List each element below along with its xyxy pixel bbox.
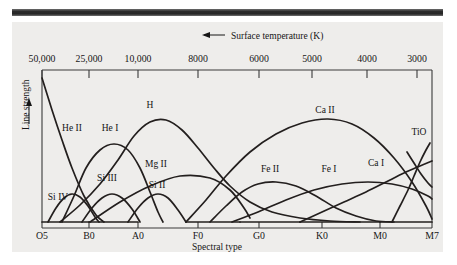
y-axis-title: Line strength <box>21 79 31 130</box>
top-axis-tick-label: 3000 <box>407 53 427 64</box>
bottom-axis-ticks <box>89 222 380 228</box>
curve-label-he-ii: He II <box>62 123 82 133</box>
left-arrow-head-icon <box>202 32 210 38</box>
spectral-type-label: M0 <box>373 230 387 241</box>
curve-h <box>60 119 360 222</box>
top-axis-tick-label: 4000 <box>357 53 377 64</box>
curve-label-tio: TiO <box>412 127 427 137</box>
top-axis-tick-label: 10,000 <box>125 53 152 64</box>
curve-label-ca-ii: Ca II <box>315 105 334 115</box>
spectral-type-label: A0 <box>132 230 144 241</box>
spectral-type-label: F0 <box>193 230 203 241</box>
curve-label-he-i: He I <box>102 123 119 133</box>
curve-labels: He IIHe ISi IVSi IIISi IIMg IIHFe IIFe I… <box>48 100 427 202</box>
spectral-type-label: K0 <box>316 230 328 241</box>
curve-label-ca-i: Ca I <box>368 158 384 168</box>
curve-label-si-iii: Si III <box>97 173 117 183</box>
spectral-type-labels: O5B0A0F0G0K0M0M7 <box>36 230 439 241</box>
curve-label-mg-ii: Mg II <box>145 159 167 169</box>
curve-label-si-iv: Si IV <box>48 192 68 202</box>
top-axis-ticks <box>42 70 417 78</box>
x-axis-title: Spectral type <box>192 242 242 252</box>
curve-ca-ii <box>186 119 432 222</box>
spectral-type-label: M7 <box>425 230 439 241</box>
plot-canvas: Surface temperature (K) 50,00025,00010,0… <box>12 22 443 252</box>
top-axis-tick-label: 8000 <box>188 53 208 64</box>
figure-root: Surface temperature (K) 50,00025,00010,0… <box>0 0 457 265</box>
decorative-top-rule <box>12 9 443 16</box>
curve-label-h: H <box>147 100 154 110</box>
curve-tio <box>392 143 430 222</box>
top-axis <box>42 70 432 78</box>
spectral-line-strength-figure: Surface temperature (K) 50,00025,00010,0… <box>12 22 443 252</box>
data-curves <box>42 78 432 222</box>
spectral-type-label: O5 <box>36 230 48 241</box>
spectral-type-label: G0 <box>253 230 265 241</box>
spectral-type-label: B0 <box>83 230 95 241</box>
curve-fe-ii <box>210 182 394 222</box>
curve-ca-i <box>300 161 432 222</box>
top-axis-tick-label: 50,000 <box>29 53 56 64</box>
top-axis-title-group: Surface temperature (K) <box>202 31 323 42</box>
y-axis-title-group: Line strength <box>21 79 32 130</box>
top-axis-tick-labels: 50,00025,00010,00080006000500040003000 <box>29 53 427 64</box>
curve-label-si-ii: Si II <box>149 180 166 190</box>
curve-label-fe-i: Fe I <box>321 164 336 174</box>
top-axis-tick-label: 6000 <box>249 53 269 64</box>
top-axis-title: Surface temperature (K) <box>231 31 323 42</box>
top-axis-tick-label: 25,000 <box>76 53 103 64</box>
curve-label-fe-ii: Fe II <box>261 164 279 174</box>
top-axis-tick-label: 5000 <box>302 53 322 64</box>
